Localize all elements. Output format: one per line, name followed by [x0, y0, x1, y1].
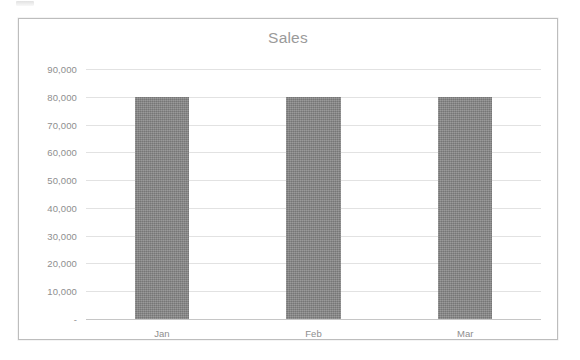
bar-group: Feb [238, 69, 390, 319]
y-axis-tick-label: 70,000 [47, 119, 77, 130]
x-axis-tick-label: Feb [305, 328, 321, 339]
chart-frame[interactable]: Sales 90,00080,00070,00060,00050,00040,0… [18, 18, 558, 340]
scan-artifact [16, 1, 34, 6]
y-axis-tick-label: 90,000 [47, 64, 77, 75]
chart-title: Sales [19, 29, 557, 47]
plot-area: 90,00080,00070,00060,00050,00040,00030,0… [86, 69, 541, 319]
bar-group: Mar [389, 69, 541, 319]
y-axis-tick-label: 30,000 [47, 230, 77, 241]
bars-layer: JanFebMar [86, 69, 541, 319]
y-axis-tick-label: 10,000 [47, 286, 77, 297]
y-axis-tick-label: 20,000 [47, 258, 77, 269]
x-axis-tick-label: Mar [457, 328, 473, 339]
y-axis-tick-label: 80,000 [47, 91, 77, 102]
y-axis-tick-label: 60,000 [47, 147, 77, 158]
bar[interactable] [135, 97, 190, 319]
bar[interactable] [438, 97, 493, 319]
bar-group: Jan [86, 69, 238, 319]
bar[interactable] [286, 97, 341, 319]
y-axis-tick-label: 40,000 [47, 202, 77, 213]
y-axis-tick-label: 50,000 [47, 175, 77, 186]
x-axis-tick-label: Jan [154, 328, 169, 339]
y-axis-tick-label: - [74, 314, 77, 325]
axis-line-zero: - [86, 319, 541, 320]
